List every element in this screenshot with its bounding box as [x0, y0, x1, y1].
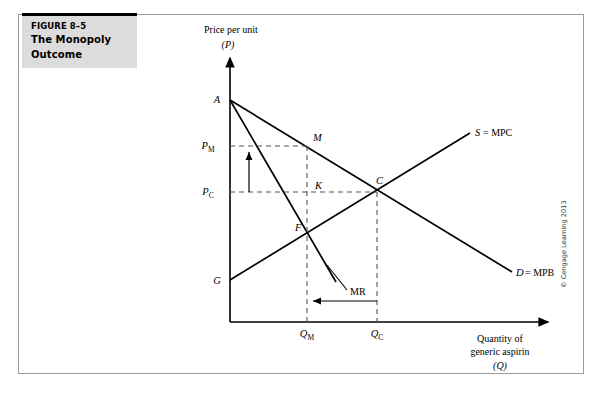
supply-curve-label-symbol: S: [475, 127, 481, 138]
figure-page: FIGURE 8–5 The Monopoly Outcome: [0, 0, 602, 393]
point-label-A: A: [213, 94, 221, 105]
monopoly-chart: Price per unit (P) Quantity of generic a…: [0, 0, 602, 393]
x-axis-label-symbol: (Q): [493, 360, 508, 372]
marginal-revenue-curve: [230, 100, 336, 282]
y-tick-pc-sub: C: [209, 191, 214, 200]
y-tick-label-monopoly-price: PM: [200, 140, 214, 154]
x-tick-label-competitive-quantity: QC: [371, 328, 384, 342]
supply-curve: [230, 133, 470, 280]
point-label-F: F: [294, 222, 302, 233]
y-axis-label-symbol: (P): [222, 39, 235, 51]
demand-curve-label-text: = MPB: [525, 267, 555, 278]
y-tick-label-competitive-price: PC: [201, 186, 213, 200]
point-label-M: M: [312, 132, 323, 143]
point-label-G: G: [213, 275, 221, 286]
demand-curve-label-symbol: D: [515, 267, 524, 278]
mr-curve-label: MR: [350, 286, 366, 297]
supply-curve-label-text: = MPC: [483, 127, 513, 138]
point-label-C: C: [376, 175, 384, 186]
mr-leader-line: [327, 265, 347, 290]
x-tick-label-monopoly-quantity: QM: [300, 328, 315, 342]
point-label-K: K: [314, 180, 323, 191]
y-axis-label-line-1: Price per unit: [204, 24, 258, 35]
x-tick-qc-sub: C: [378, 333, 383, 342]
demand-curve: [230, 100, 512, 272]
copyright-credit: © Cengage Learning 2013: [560, 188, 568, 288]
y-tick-pm-sub: M: [208, 145, 215, 154]
x-axis-label-line-1: Quantity of: [477, 333, 523, 344]
x-tick-qm-sub: M: [307, 333, 314, 342]
x-axis-label-line-2: generic aspirin: [470, 346, 529, 357]
